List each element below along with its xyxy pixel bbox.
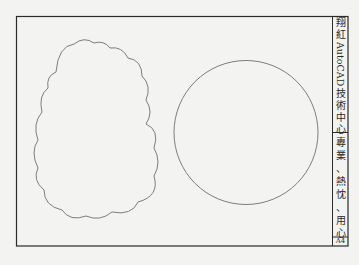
motto-char: 、 [336, 162, 346, 175]
drawing-sheet: 翔 紅 AutoCAD 技 術 中 心 專 業 、 熱 忱 、 用 心 A4 [0, 0, 359, 265]
motto-char: 忱 [336, 188, 346, 201]
sheet-border [17, 17, 349, 247]
center-name-char: 術 [336, 100, 346, 112]
title-block-motto: 專 業 、 熱 忱 、 用 心 [333, 133, 348, 237]
motto-char: 業 [336, 149, 346, 162]
title-block-center-name: 翔 紅 AutoCAD 技 術 中 心 [333, 17, 348, 132]
motto-char: 、 [336, 201, 346, 214]
motto-char: 用 [336, 214, 346, 227]
center-name-char: 中 [336, 112, 346, 124]
motto-char: 熱 [336, 175, 346, 188]
center-name-latin: AutoCAD [334, 42, 347, 86]
sheet-size-label: A4 [333, 237, 348, 246]
circle-shape [174, 61, 318, 205]
center-name-char: 技 [336, 88, 346, 100]
center-name-char: 翔 [336, 17, 346, 29]
revision-cloud-shape [34, 40, 158, 219]
motto-char: 專 [336, 136, 346, 149]
drawing-canvas [0, 0, 359, 265]
center-name-char: 紅 [336, 29, 346, 41]
